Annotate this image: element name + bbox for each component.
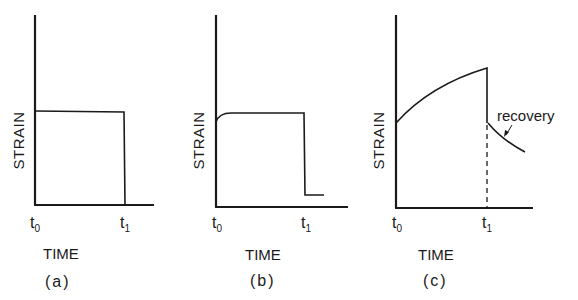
panel-c-tick-t1: t1 xyxy=(482,214,492,234)
panel-b-plot xyxy=(215,15,348,207)
panel-c-tick-t0: t0 xyxy=(392,214,402,234)
panel-b-caption: (b) xyxy=(250,272,276,290)
panel-b-tick-t1: t1 xyxy=(301,214,311,234)
panel-a-ylabel: STRAIN xyxy=(10,111,27,171)
panel-c-ylabel: STRAIN xyxy=(370,111,387,171)
panel-c-creep-curve xyxy=(396,68,487,123)
panel-c-recovery-annotation: recovery xyxy=(497,107,555,124)
panel-a-tick-t1: t1 xyxy=(120,214,130,234)
panel-a-caption: (a) xyxy=(45,273,71,291)
panel-a-tick-t0: t0 xyxy=(30,214,40,234)
panel-b-strain-curve xyxy=(216,113,324,195)
panel-c-recovery-curve xyxy=(488,123,525,152)
panel-a-plot xyxy=(34,15,154,205)
panel-b-tick-t0: t0 xyxy=(212,214,222,234)
panel-c-caption: (c) xyxy=(423,272,448,290)
panel-a-xlabel: TIME xyxy=(43,245,79,262)
panel-c-xlabel: TIME xyxy=(418,246,454,263)
panel-a-strain-curve xyxy=(35,111,125,205)
panel-b-xlabel: TIME xyxy=(245,246,281,263)
panel-b-ylabel: STRAIN xyxy=(190,111,207,171)
figure-canvas xyxy=(0,0,578,300)
